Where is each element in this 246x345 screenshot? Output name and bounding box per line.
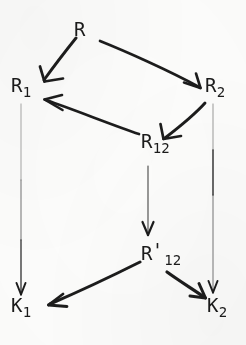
node-k1-base: K	[11, 294, 23, 316]
edge-r12prime-to-k1	[49, 262, 141, 307]
node-k2-base: K	[207, 294, 219, 316]
node-r1: R1	[11, 76, 31, 95]
edge-r2-to-k2	[209, 104, 218, 293]
node-k1-sub: 1	[23, 304, 31, 320]
edge-r1-to-k1	[17, 104, 26, 295]
node-r12: R12	[141, 132, 170, 151]
edge-r-to-r2	[100, 41, 201, 88]
node-r12prime-prime: '	[152, 239, 163, 261]
node-k2-sub: 2	[219, 304, 227, 320]
node-r12-base: R	[141, 130, 153, 152]
node-r12prime-base: R	[141, 242, 153, 264]
node-k2: K2	[207, 296, 227, 315]
edge-r12-to-r1	[45, 95, 140, 134]
node-r12-sub: 12	[153, 140, 170, 156]
edge-r12prime-to-k2	[167, 272, 206, 298]
node-r2-base: R	[205, 74, 217, 96]
edge-r12-to-r12prime	[143, 166, 154, 235]
node-r2: R2	[205, 76, 225, 95]
node-r2-sub: 2	[217, 84, 225, 100]
node-r1-sub: 1	[23, 84, 31, 100]
node-r: R	[74, 20, 86, 39]
node-r12prime-sub: 12	[164, 252, 181, 268]
diagram-canvas: R R1 R2 R12 R'12 K1 K2	[0, 0, 246, 345]
edge-r-to-r1	[40, 38, 76, 82]
node-r12-prime: R'12	[141, 244, 181, 263]
node-r-base: R	[74, 18, 86, 40]
node-k1: K1	[11, 296, 31, 315]
node-r1-base: R	[11, 74, 23, 96]
